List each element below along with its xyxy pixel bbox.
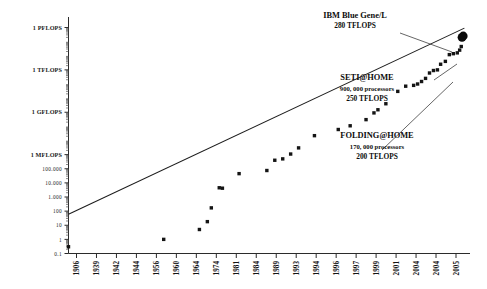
data-point-square xyxy=(364,118,367,121)
x-tick-label-9: 1984 xyxy=(253,261,261,276)
data-point-square xyxy=(412,84,415,87)
data-point-square xyxy=(221,186,224,189)
x-tick-label-8: 1981 xyxy=(233,261,241,276)
data-point-square xyxy=(289,152,292,155)
x-tick-label-3: 1944 xyxy=(133,261,141,276)
data-point-square xyxy=(404,84,407,87)
y-tick-label-6: 1.000 xyxy=(48,194,62,200)
data-point-square xyxy=(297,146,300,149)
data-point-square xyxy=(265,169,268,172)
data-point-square xyxy=(348,124,351,127)
annotation-ibm-line-2: 280 TFLOPS xyxy=(334,21,376,30)
x-tick-label-18: 2004 xyxy=(433,261,441,276)
data-point-square xyxy=(458,48,461,51)
data-point-square xyxy=(273,159,276,162)
data-point-square xyxy=(420,80,423,83)
annotation-folding-line-2: 170, 000 processors xyxy=(350,143,405,150)
data-point-square xyxy=(452,52,455,55)
x-tick-label-12: 1994 xyxy=(313,261,321,276)
y-tick-label-4: 100.000 xyxy=(42,166,62,172)
x-tick-label-7: 1974 xyxy=(213,261,221,276)
annotation-seti-line-1: SETI@HOME xyxy=(340,73,394,82)
y-tick-label-7: 100 xyxy=(53,208,62,214)
data-point-square xyxy=(162,238,165,241)
data-point-square xyxy=(67,245,70,248)
data-point-square xyxy=(424,77,427,80)
x-tick-label-6: 1964 xyxy=(193,261,201,276)
x-tick-label-13: 1996 xyxy=(333,261,341,276)
x-tick-label-4: 1956 xyxy=(153,261,161,276)
y-tick-label-10: 0.1 xyxy=(54,251,62,257)
data-point-square xyxy=(372,111,375,114)
y-tick-label-9: 1 xyxy=(59,237,62,243)
data-point-square xyxy=(313,134,316,137)
y-tick-label-8: 10 xyxy=(56,222,62,228)
y-tick-label-2: 1 GFLOPS xyxy=(32,108,63,115)
data-point-square xyxy=(218,186,221,189)
y-tick-label-5: 10.000 xyxy=(45,180,62,186)
annotation-folding-line-3: 200 TFLOPS xyxy=(356,152,398,161)
data-point-square xyxy=(460,45,463,48)
supercomputer-performance-chart: 1 PFLOPS1 TFLOPS1 GFLOPS1 MFLOPS100.0001… xyxy=(0,0,487,289)
data-point-square xyxy=(210,206,213,209)
y-tick-label-3: 1 MFLOPS xyxy=(31,151,63,158)
data-point-square xyxy=(396,90,399,93)
data-point-square xyxy=(281,157,284,160)
annotation-seti-line-3: 250 TFLOPS xyxy=(346,94,388,103)
data-point-square xyxy=(198,228,201,231)
annotation-seti-line-2: 900, 000 processors xyxy=(340,85,395,92)
data-point-square xyxy=(436,68,439,71)
data-point-square xyxy=(416,82,419,85)
x-tick-label-10: 1989 xyxy=(273,261,281,276)
annotation-ibm-line-1: IBM Blue Gene/L xyxy=(323,11,387,20)
x-tick-label-5: 1960 xyxy=(173,261,181,276)
data-point-square xyxy=(237,172,240,175)
x-tick-label-0: 1906 xyxy=(73,261,81,276)
chart-container: 1 PFLOPS1 TFLOPS1 GFLOPS1 MFLOPS100.0001… xyxy=(0,0,487,289)
x-tick-label-14: 1997 xyxy=(353,261,361,276)
data-point-square xyxy=(206,220,209,223)
x-tick-label-16: 2001 xyxy=(393,261,401,276)
data-point-circle-folding-home xyxy=(458,33,467,42)
data-point-square xyxy=(432,69,435,72)
x-tick-label-2: 1942 xyxy=(113,261,121,276)
x-tick-label-19: 2005 xyxy=(453,261,461,276)
annotation-seti-at-home: SETI@HOME 900, 000 processors 250 TFLOPS xyxy=(340,73,395,103)
annotation-folding-line-1: FOLDING@HOME xyxy=(340,131,414,140)
data-point-square xyxy=(428,71,431,74)
chart-background xyxy=(0,0,487,289)
x-tick-label-1: 1939 xyxy=(93,261,101,276)
x-tick-label-11: 1993 xyxy=(293,261,301,276)
data-point-square xyxy=(448,53,451,56)
y-tick-label-1: 1 TFLOPS xyxy=(33,66,63,73)
data-point-square xyxy=(444,60,447,63)
y-tick-label-0: 1 PFLOPS xyxy=(33,24,63,31)
data-point-square xyxy=(439,63,442,66)
x-tick-label-15: 1999 xyxy=(373,261,381,276)
data-point-square xyxy=(376,108,379,111)
x-tick-label-17: 2004 xyxy=(413,261,421,276)
